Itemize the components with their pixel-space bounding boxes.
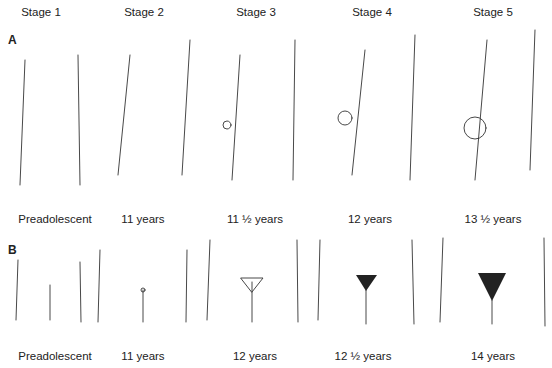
panel-b-caption-5: 14 years	[438, 350, 548, 362]
panel-b-caption-2: 11 years	[88, 350, 198, 362]
panel-b-caption-3: 12 years	[200, 350, 310, 362]
panel-b-diagram	[0, 0, 552, 368]
panel-b-stage-1-outline	[16, 260, 81, 322]
panel-b-stage-3-outline	[207, 240, 298, 322]
panel-b-caption-4: 12 ½ years	[308, 350, 418, 362]
panel-b-stage-4-outline	[318, 240, 414, 324]
panel-b-stage-5-outline	[440, 238, 545, 326]
panel-b-stage-2-outline	[98, 250, 187, 322]
